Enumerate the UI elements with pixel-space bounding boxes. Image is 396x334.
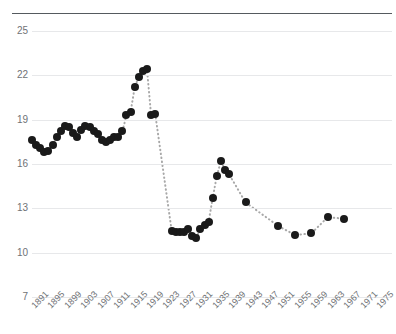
data-point[interactable] xyxy=(118,127,126,135)
data-point[interactable] xyxy=(242,198,250,206)
data-point[interactable] xyxy=(49,141,57,149)
x-axis-tick-label: 1975 xyxy=(375,290,396,311)
data-point[interactable] xyxy=(307,229,315,237)
data-point[interactable] xyxy=(73,133,81,141)
data-point[interactable] xyxy=(324,213,332,221)
y-axis-tick-label: 25 xyxy=(2,26,28,36)
y-axis-tick-label: 7 xyxy=(2,292,28,302)
data-point[interactable] xyxy=(213,172,221,180)
data-point[interactable] xyxy=(151,110,159,118)
data-point[interactable] xyxy=(127,108,135,116)
data-point[interactable] xyxy=(225,170,233,178)
y-axis-tick-label: 13 xyxy=(2,203,28,213)
data-point[interactable] xyxy=(131,83,139,91)
data-point[interactable] xyxy=(340,215,348,223)
y-gridline xyxy=(32,120,392,121)
data-point[interactable] xyxy=(291,231,299,239)
x-axis-tick-label: 1911 xyxy=(112,290,132,310)
y-axis-tick: 7 xyxy=(0,292,28,302)
y-gridline xyxy=(32,164,392,165)
y-axis-tick-label: 22 xyxy=(2,70,28,80)
data-point[interactable] xyxy=(143,65,151,73)
y-gridline xyxy=(32,253,392,254)
y-axis-tick-label: 19 xyxy=(2,115,28,125)
series-polyline xyxy=(32,69,344,237)
y-axis-tick: 22 xyxy=(0,70,28,80)
data-point[interactable] xyxy=(217,157,225,165)
y-gridline xyxy=(32,208,392,209)
y-axis-tick-label: 16 xyxy=(2,159,28,169)
y-axis-tick: 25 xyxy=(0,26,28,36)
y-axis-tick-label: 10 xyxy=(2,248,28,258)
y-axis-tick: 19 xyxy=(0,115,28,125)
y-gridline xyxy=(32,31,392,32)
data-point[interactable] xyxy=(192,234,200,242)
data-point[interactable] xyxy=(274,222,282,230)
y-axis-tick: 13 xyxy=(0,203,28,213)
y-axis-tick: 10 xyxy=(0,248,28,258)
y-axis-tick: 16 xyxy=(0,159,28,169)
data-point[interactable] xyxy=(209,194,217,202)
data-point[interactable] xyxy=(205,218,213,226)
y-gridline xyxy=(32,75,392,76)
